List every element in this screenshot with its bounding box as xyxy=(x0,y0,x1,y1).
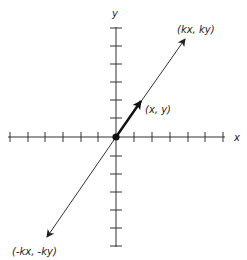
scaled-vector-label: (kx, ky) xyxy=(177,24,215,35)
origin-point xyxy=(112,133,119,140)
negated-scaled-vector-label: (-kx, -ky) xyxy=(12,246,57,257)
vector-scaling-diagram: x y (x, y) (kx, ky) (-kx, -ky) xyxy=(0,0,247,260)
unit-vector-label: (x, y) xyxy=(145,104,171,115)
unit-vector-arrow xyxy=(116,101,141,137)
x-axis-label: x xyxy=(233,132,240,143)
negated-scaled-vector-arrow xyxy=(47,137,116,237)
y-axis-label: y xyxy=(111,8,119,19)
